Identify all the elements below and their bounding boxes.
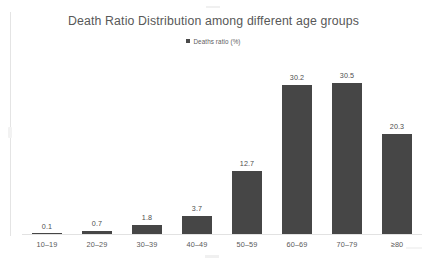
x-axis-tick-label: 30–39	[122, 240, 172, 249]
bar-slot: 12.7	[222, 56, 272, 234]
legend-label-deaths-ratio: Deaths ratio (%)	[193, 38, 240, 45]
x-axis-tick-label: 50–59	[222, 240, 272, 249]
bar-slot: 3.7	[172, 56, 222, 234]
x-axis-category-labels: 10–1920–2930–3940–4950–5960–6970–79≥80	[22, 240, 422, 254]
bar-slot: 20.3	[372, 56, 422, 234]
bar[interactable]	[132, 225, 162, 234]
bar-value-label: 12.7	[240, 159, 254, 168]
x-axis-line	[22, 234, 422, 235]
bar-value-label: 1.8	[142, 213, 152, 222]
scan-artifact-bottom	[205, 255, 219, 258]
bar-value-label: 20.3	[390, 122, 404, 131]
bar-value-label: 0.7	[92, 219, 102, 228]
bar-value-label: 30.5	[340, 71, 354, 80]
x-axis-tick-label: 70–79	[322, 240, 372, 249]
y-axis-line	[10, 12, 11, 236]
bar[interactable]	[382, 134, 412, 234]
x-axis-tick-label: 10–19	[22, 240, 72, 249]
bar-value-label: 3.7	[192, 204, 202, 213]
bar-value-label: 0.1	[42, 222, 52, 231]
bar-slot: 0.1	[22, 56, 72, 234]
x-axis-tick-label: 40–49	[172, 240, 222, 249]
bar-value-label: 30.2	[290, 73, 304, 82]
bar[interactable]	[232, 171, 262, 234]
legend-color-swatch-deaths-ratio	[186, 39, 190, 43]
scan-artifact-top	[206, 6, 220, 8]
scan-artifact-right	[406, 247, 422, 249]
plot-area: 0.10.71.83.712.730.230.520.3	[22, 56, 422, 234]
chart-title: Death Ratio Distribution among different…	[0, 14, 427, 28]
bar-slot: 30.2	[272, 56, 322, 234]
bar[interactable]	[282, 85, 312, 234]
bar[interactable]	[182, 216, 212, 234]
bar-slot: 1.8	[122, 56, 172, 234]
bar-slot: 30.5	[322, 56, 372, 234]
bar-slot: 0.7	[72, 56, 122, 234]
x-axis-tick-label: 20–29	[72, 240, 122, 249]
x-axis-tick-label: 60–69	[272, 240, 322, 249]
chart-legend: Deaths ratio (%)	[0, 38, 427, 45]
y-axis-notch-marker	[8, 127, 12, 138]
bar[interactable]	[332, 83, 362, 234]
bar-chart-figure: Death Ratio Distribution among different…	[0, 0, 427, 264]
bar[interactable]	[32, 233, 62, 234]
bar[interactable]	[82, 231, 112, 234]
